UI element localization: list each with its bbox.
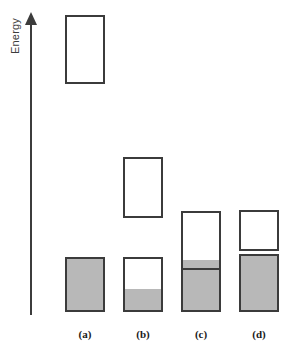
column-a-conduction-band bbox=[65, 15, 105, 84]
column-a-valence-band bbox=[65, 257, 105, 312]
column-d-upper-overlapping-band bbox=[239, 210, 279, 251]
column-label-d: (d) bbox=[234, 328, 284, 340]
column-c-partially-filled-band bbox=[181, 211, 221, 312]
column-label-b: (b) bbox=[118, 328, 168, 340]
column-b-valence-band bbox=[123, 257, 163, 312]
column-d-lower-fill bbox=[241, 256, 277, 310]
column-label-c: (c) bbox=[176, 328, 226, 340]
column-b-conduction-band bbox=[123, 157, 163, 218]
energy-axis-label: Energy bbox=[9, 6, 21, 66]
energy-axis-line bbox=[30, 22, 32, 315]
column-label-a: (a) bbox=[60, 328, 110, 340]
column-c-sub-level-band bbox=[183, 260, 219, 268]
column-c-main-fill bbox=[183, 270, 219, 310]
band-structure-figure: Energy (a) (b) (c) (d) bbox=[0, 0, 294, 354]
energy-axis: Energy bbox=[0, 0, 56, 330]
column-b-valence-fill bbox=[125, 289, 161, 310]
column-d-lower-overlapping-band bbox=[239, 254, 279, 312]
column-a-valence-fill bbox=[67, 259, 103, 310]
